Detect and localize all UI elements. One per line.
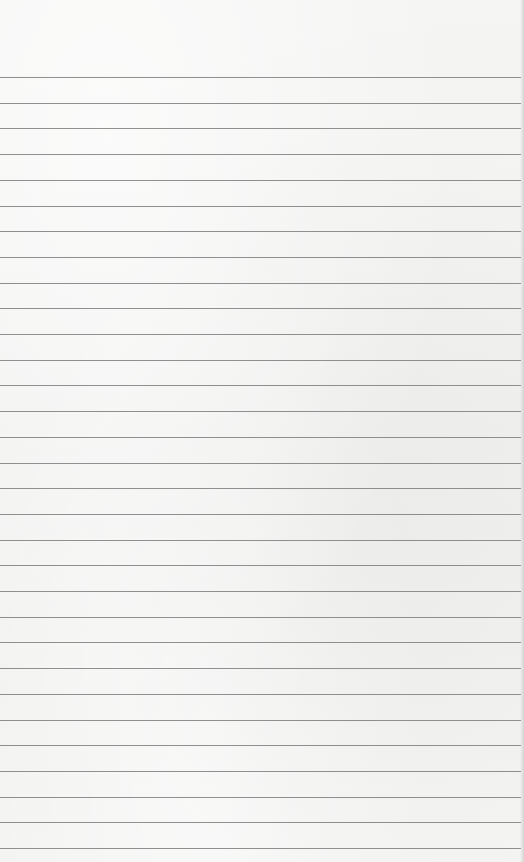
ruled-line bbox=[0, 308, 521, 309]
ruled-line bbox=[0, 694, 521, 695]
ruled-line bbox=[0, 488, 521, 489]
ruled-line bbox=[0, 720, 521, 721]
ruled-line bbox=[0, 206, 521, 207]
ruled-line bbox=[0, 848, 521, 849]
ruled-line bbox=[0, 514, 521, 515]
ruled-line bbox=[0, 103, 521, 104]
ruled-line bbox=[0, 437, 521, 438]
ruled-line bbox=[0, 591, 521, 592]
ruled-line bbox=[0, 822, 521, 823]
ruled-line bbox=[0, 463, 521, 464]
ruled-line bbox=[0, 257, 521, 258]
ruled-line bbox=[0, 642, 521, 643]
ruled-line bbox=[0, 385, 521, 386]
ruled-line bbox=[0, 771, 521, 772]
ruled-line bbox=[0, 180, 521, 181]
ruled-line bbox=[0, 617, 521, 618]
ruled-line bbox=[0, 540, 521, 541]
ruled-line bbox=[0, 565, 521, 566]
ruled-line bbox=[0, 154, 521, 155]
ruled-line bbox=[0, 283, 521, 284]
lined-paper-sheet bbox=[0, 0, 524, 862]
ruled-line bbox=[0, 797, 521, 798]
ruled-line bbox=[0, 334, 521, 335]
ruled-line bbox=[0, 77, 521, 78]
ruled-line bbox=[0, 411, 521, 412]
ruled-line bbox=[0, 668, 521, 669]
ruled-line bbox=[0, 128, 521, 129]
ruled-line bbox=[0, 745, 521, 746]
ruled-line bbox=[0, 360, 521, 361]
ruled-line bbox=[0, 231, 521, 232]
